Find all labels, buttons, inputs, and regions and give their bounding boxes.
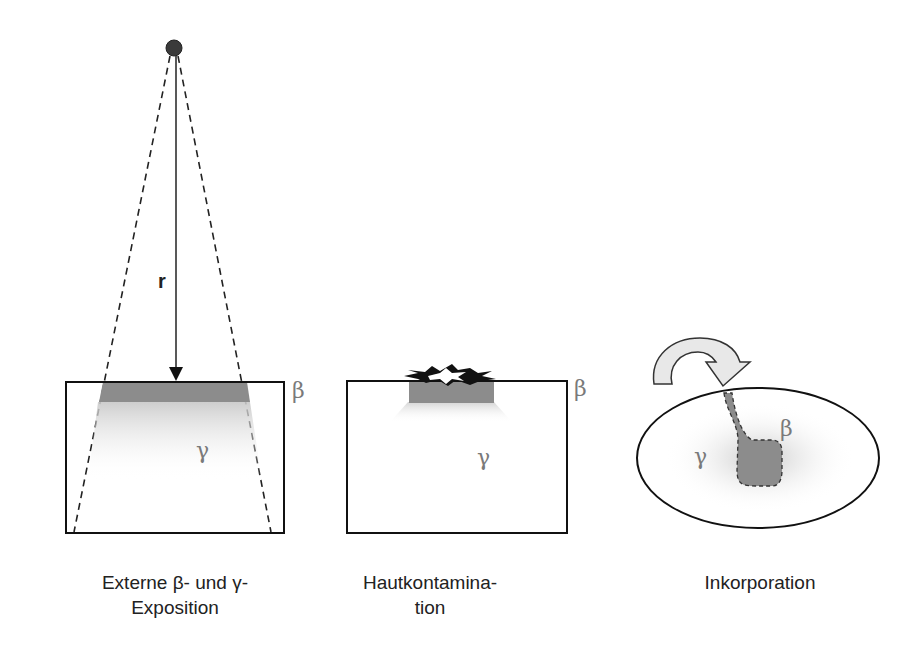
- gamma-region: [88, 402, 262, 480]
- radiation-exposure-diagram: r β γ β γ β γ: [0, 0, 917, 664]
- distance-label: r: [158, 270, 166, 292]
- caption-line-1: Externe β- und γ-: [60, 570, 290, 595]
- caption-skin-contamination: Hautkontamina- tion: [340, 570, 520, 620]
- gamma-region: [390, 402, 512, 422]
- gamma-label: γ: [477, 445, 490, 470]
- beta-label: β: [574, 376, 587, 401]
- beta-label: β: [292, 378, 305, 403]
- caption-line-2: tion: [340, 595, 520, 620]
- panel-external-exposure: r β γ: [66, 40, 305, 533]
- beta-layer: [99, 382, 250, 402]
- caption-line-2: Exposition: [60, 595, 290, 620]
- caption-external-exposure: Externe β- und γ- Exposition: [60, 570, 290, 620]
- gamma-label: γ: [694, 444, 707, 469]
- beta-layer: [409, 382, 494, 403]
- ingestion-arrow-icon: [654, 338, 750, 386]
- caption-line-1: Inkorporation: [680, 570, 840, 595]
- gamma-label: γ: [196, 438, 209, 463]
- caption-line-1: Hautkontamina-: [340, 570, 520, 595]
- panel-incorporation: β γ: [637, 338, 879, 528]
- panel-skin-contamination: β γ: [347, 364, 587, 533]
- beta-label: β: [780, 416, 793, 441]
- caption-incorporation: Inkorporation: [680, 570, 840, 595]
- point-source-icon: [166, 40, 182, 56]
- arrowhead-icon: [169, 367, 183, 381]
